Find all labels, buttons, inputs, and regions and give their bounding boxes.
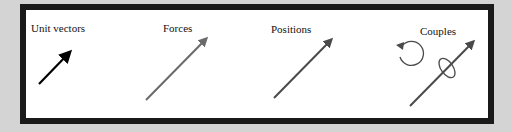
vector-illustrations <box>0 0 512 132</box>
force-arrow-icon <box>146 39 206 100</box>
position-arrow-icon <box>274 40 331 98</box>
unit-vector-arrow-icon <box>39 53 69 84</box>
rotation-circle-icon <box>396 41 423 65</box>
couple-arrow-icon <box>410 42 473 106</box>
